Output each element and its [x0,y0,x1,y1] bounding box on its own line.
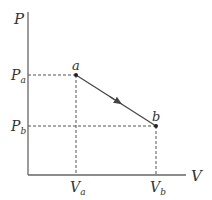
pa-main: P [10,67,21,83]
point-b [154,124,158,128]
pa-label: Pa [10,67,26,85]
pa-sub: a [20,75,25,85]
pb-label: Pb [10,118,26,136]
pb-sub: b [20,126,26,136]
pv-diagram: P V a b Pa Pb Va Vb [0,0,212,200]
point-a-label: a [72,58,80,73]
point-b-label: b [152,109,160,124]
vb-label: Vb [150,179,166,197]
va-label: Va [70,179,86,197]
va-sub: a [80,187,85,197]
y-axis-label: P [13,10,25,28]
arrow-icon [110,97,119,103]
vb-sub: b [160,187,166,197]
point-a [74,73,78,77]
x-axis-label: V [191,167,204,185]
pb-main: P [10,118,21,134]
